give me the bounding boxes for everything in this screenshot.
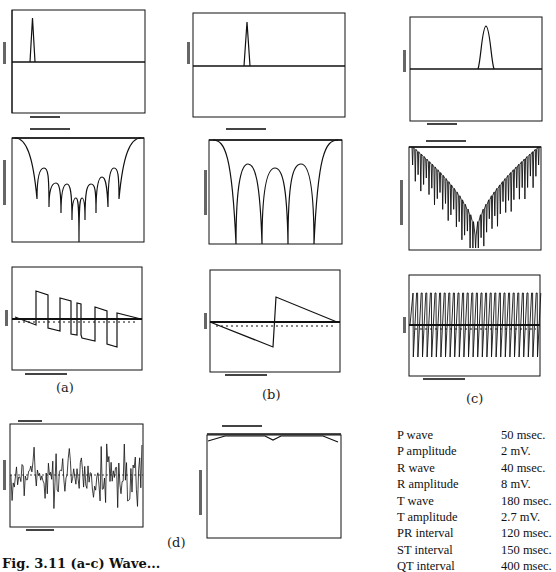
y-axis-label xyxy=(199,470,202,515)
param-name: PR interval xyxy=(397,525,501,541)
param-row: PR interval120 msec. xyxy=(397,525,556,541)
param-value: 50 msec. xyxy=(501,427,556,443)
plot-b-time xyxy=(180,0,360,125)
y-axis-label xyxy=(204,313,207,329)
plot-a-magnitude-svg xyxy=(0,125,180,255)
param-row: QT interval400 msec. xyxy=(397,558,556,572)
y-axis-label xyxy=(5,310,8,326)
plot-b-magnitude-svg xyxy=(180,125,360,255)
plot-b-phase-svg xyxy=(180,255,360,405)
x-axis-label xyxy=(222,425,262,427)
title-label xyxy=(18,420,42,422)
ecg-parameter-table: P wave50 msec. P amplitude2 mV. R wave40… xyxy=(397,427,556,572)
plot-d-noise-svg xyxy=(0,410,160,535)
plot-a-time xyxy=(0,0,180,125)
x-axis-label xyxy=(423,378,465,380)
plot-d-noise xyxy=(0,410,160,535)
plot-a-phase-svg xyxy=(0,255,180,405)
param-value: 400 msec. xyxy=(501,558,556,572)
plot-b-time-svg xyxy=(180,0,360,125)
param-name: T amplitude xyxy=(397,509,501,525)
x-axis-label xyxy=(225,374,267,376)
plot-b-phase: (b) xyxy=(180,255,360,405)
param-row: R wave40 msec. xyxy=(397,460,556,476)
param-row: T amplitude2.7 mV. xyxy=(397,509,556,525)
y-axis-label xyxy=(400,180,403,225)
plot-c-magnitude xyxy=(360,130,550,270)
x-axis-label xyxy=(25,373,67,375)
y-axis-label xyxy=(3,160,6,205)
x-axis-label xyxy=(30,116,60,118)
plot-a-magnitude xyxy=(0,125,180,255)
param-value: 40 msec. xyxy=(501,460,556,476)
plot-a-phase: (a) xyxy=(0,255,180,405)
y-axis-label xyxy=(3,460,6,490)
param-name: R amplitude xyxy=(397,476,501,492)
param-name: P wave xyxy=(397,427,501,443)
panel-label-b: (b) xyxy=(262,387,280,402)
plot-c-time-svg xyxy=(360,0,550,130)
x-axis-label xyxy=(26,529,54,531)
plot-b-magnitude xyxy=(180,125,360,255)
plot-c-magnitude-svg xyxy=(360,130,550,270)
y-axis-label xyxy=(3,42,6,64)
param-row: R amplitude8 mV. xyxy=(397,476,556,492)
plot-c-phase-svg xyxy=(360,265,550,415)
param-value: 8 mV. xyxy=(501,476,556,492)
plot-c-phase: (c) xyxy=(360,265,550,415)
panel-label-d: (d) xyxy=(167,535,185,550)
y-axis-label xyxy=(204,170,207,215)
plot-d-magnitude xyxy=(180,410,360,540)
y-axis-label xyxy=(187,42,190,64)
panel-label-a: (a) xyxy=(56,380,74,395)
plot-d-magnitude-svg xyxy=(180,410,360,540)
param-row: P amplitude2 mV. xyxy=(397,443,556,459)
param-value: 120 msec. xyxy=(501,525,556,541)
param-name: T wave xyxy=(397,493,501,509)
param-name: QT interval xyxy=(397,558,501,572)
figure-caption: Fig. 3.11 (a-c) Wave... xyxy=(2,556,160,571)
y-axis-label xyxy=(403,50,406,72)
param-row: ST interval150 msec. xyxy=(397,542,556,558)
x-axis-label xyxy=(30,128,70,130)
y-axis-label xyxy=(403,317,406,333)
param-value: 150 msec. xyxy=(501,542,556,558)
x-axis-label xyxy=(226,128,266,130)
param-name: ST interval xyxy=(397,542,501,558)
param-row: T wave180 msec. xyxy=(397,493,556,509)
x-axis-label xyxy=(427,123,457,125)
plot-c-time xyxy=(360,0,550,130)
panel-label-c: (c) xyxy=(466,391,483,406)
x-axis-label xyxy=(426,140,466,142)
param-value: 2.7 mV. xyxy=(501,509,556,525)
param-row: P wave50 msec. xyxy=(397,427,556,443)
plot-a-time-svg xyxy=(0,0,180,125)
param-value: 180 msec. xyxy=(501,493,556,509)
param-name: R wave xyxy=(397,460,501,476)
param-value: 2 mV. xyxy=(501,443,556,459)
param-name: P amplitude xyxy=(397,443,501,459)
